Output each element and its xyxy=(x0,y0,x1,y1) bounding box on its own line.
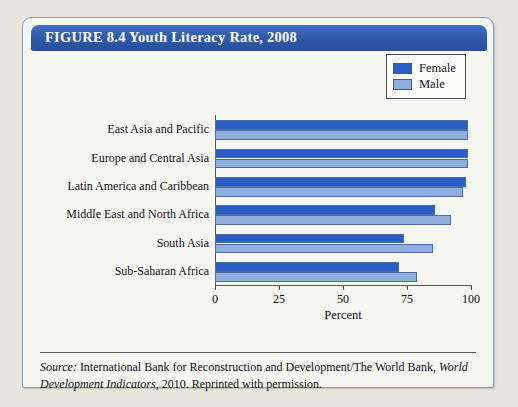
x-tick-label: 25 xyxy=(259,292,299,307)
x-tick-mark xyxy=(215,285,216,290)
figure-title-bar: FIGURE 8.4 Youth Literacy Rate, 2008 xyxy=(31,25,487,51)
source-prefix: Source: xyxy=(40,360,77,374)
x-tick-mark xyxy=(343,285,344,290)
bar-female xyxy=(215,205,435,215)
bar-female xyxy=(215,120,468,130)
x-tick-label: 100 xyxy=(451,292,491,307)
legend-label-female: Female xyxy=(419,62,456,75)
source-note: Source: International Bank for Reconstru… xyxy=(40,359,478,392)
legend-swatch-male-icon xyxy=(393,79,412,90)
x-axis-title: Percent xyxy=(215,308,471,323)
bar-female xyxy=(215,262,399,272)
category-label: South Asia xyxy=(23,237,209,249)
bar-male xyxy=(215,244,433,254)
bar-male xyxy=(215,187,463,197)
bar-male xyxy=(215,130,468,140)
legend-item-female: Female xyxy=(393,61,456,76)
source-text-1: International Bank for Reconstruction an… xyxy=(77,360,439,374)
bar-female xyxy=(215,234,404,244)
x-tick-mark xyxy=(471,285,472,290)
legend-label-male: Male xyxy=(419,78,445,91)
category-label: Middle East and North Africa xyxy=(23,208,209,220)
x-tick-mark xyxy=(407,285,408,290)
bar-male xyxy=(215,215,451,225)
source-text-2: , 2010. Reprinted with permission. xyxy=(156,377,322,391)
figure-frame: FIGURE 8.4 Youth Literacy Rate, 2008 Fem… xyxy=(22,17,494,388)
x-tick-label: 75 xyxy=(387,292,427,307)
bar-male xyxy=(215,272,417,282)
category-label: Latin America and Caribbean xyxy=(23,180,209,192)
chart-legend: Female Male xyxy=(386,54,466,99)
bar-female xyxy=(215,149,468,159)
bar-female xyxy=(215,177,466,187)
category-label: Europe and Central Asia xyxy=(23,152,209,164)
category-label: Sub-Saharan Africa xyxy=(23,265,209,277)
category-label: East Asia and Pacific xyxy=(23,123,209,135)
figure-title: FIGURE 8.4 Youth Literacy Rate, 2008 xyxy=(45,29,297,46)
legend-item-male: Male xyxy=(393,77,456,92)
source-divider xyxy=(40,352,476,353)
x-tick-label: 50 xyxy=(323,292,363,307)
bar-male xyxy=(215,159,468,169)
x-tick-label: 0 xyxy=(195,292,235,307)
x-tick-mark xyxy=(279,285,280,290)
legend-swatch-female-icon xyxy=(393,63,412,74)
plot-area xyxy=(215,115,471,285)
